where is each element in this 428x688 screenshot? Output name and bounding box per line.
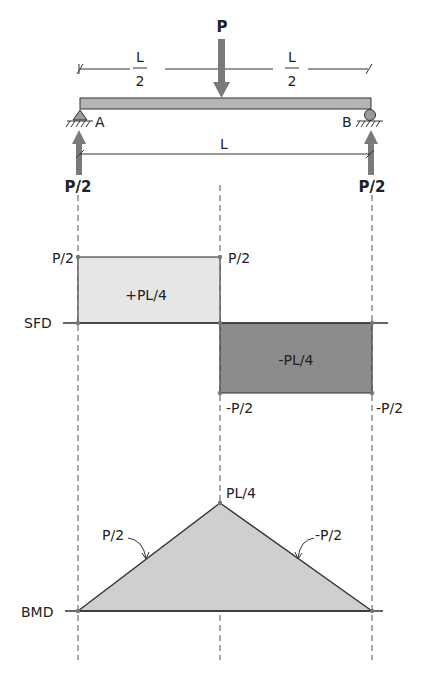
half-span-right-num: L	[288, 49, 296, 65]
bmd-region	[78, 503, 372, 611]
sfd-axis-label: SFD	[24, 315, 52, 331]
half-span-right-den: 2	[288, 73, 297, 89]
bmd-peak-label: PL/4	[226, 485, 256, 501]
pin-support-icon	[66, 110, 93, 127]
load-label: P	[217, 18, 228, 36]
beam-diagram: L 2 L 2 P A B	[0, 0, 428, 688]
sfd-right-bottom-label: -P/2	[376, 400, 403, 416]
span-label: L	[220, 136, 228, 152]
support-a-label: A	[95, 114, 105, 130]
half-span-left-num: L	[136, 49, 144, 65]
reaction-a-label: P/2	[65, 178, 92, 196]
sfd-mid-top-label: P/2	[228, 250, 250, 266]
reaction-b-label: P/2	[359, 178, 386, 196]
half-span-left-den: 2	[136, 73, 145, 89]
sfd-left-top-label: P/2	[52, 250, 74, 266]
bmd-axis-label: BMD	[21, 604, 53, 620]
sfd-mid-bottom-label: -P/2	[226, 400, 253, 416]
bmd-right-slope-label: -P/2	[315, 527, 342, 543]
roller-support-icon	[356, 110, 383, 128]
sfd-positive-area-label: +PL/4	[125, 287, 167, 303]
beam	[80, 98, 371, 109]
support-b-label: B	[342, 114, 352, 130]
reaction-arrow-a-icon	[72, 130, 86, 175]
bmd-left-slope-label: P/2	[102, 527, 124, 543]
sfd-negative-area-label: -PL/4	[279, 352, 314, 368]
